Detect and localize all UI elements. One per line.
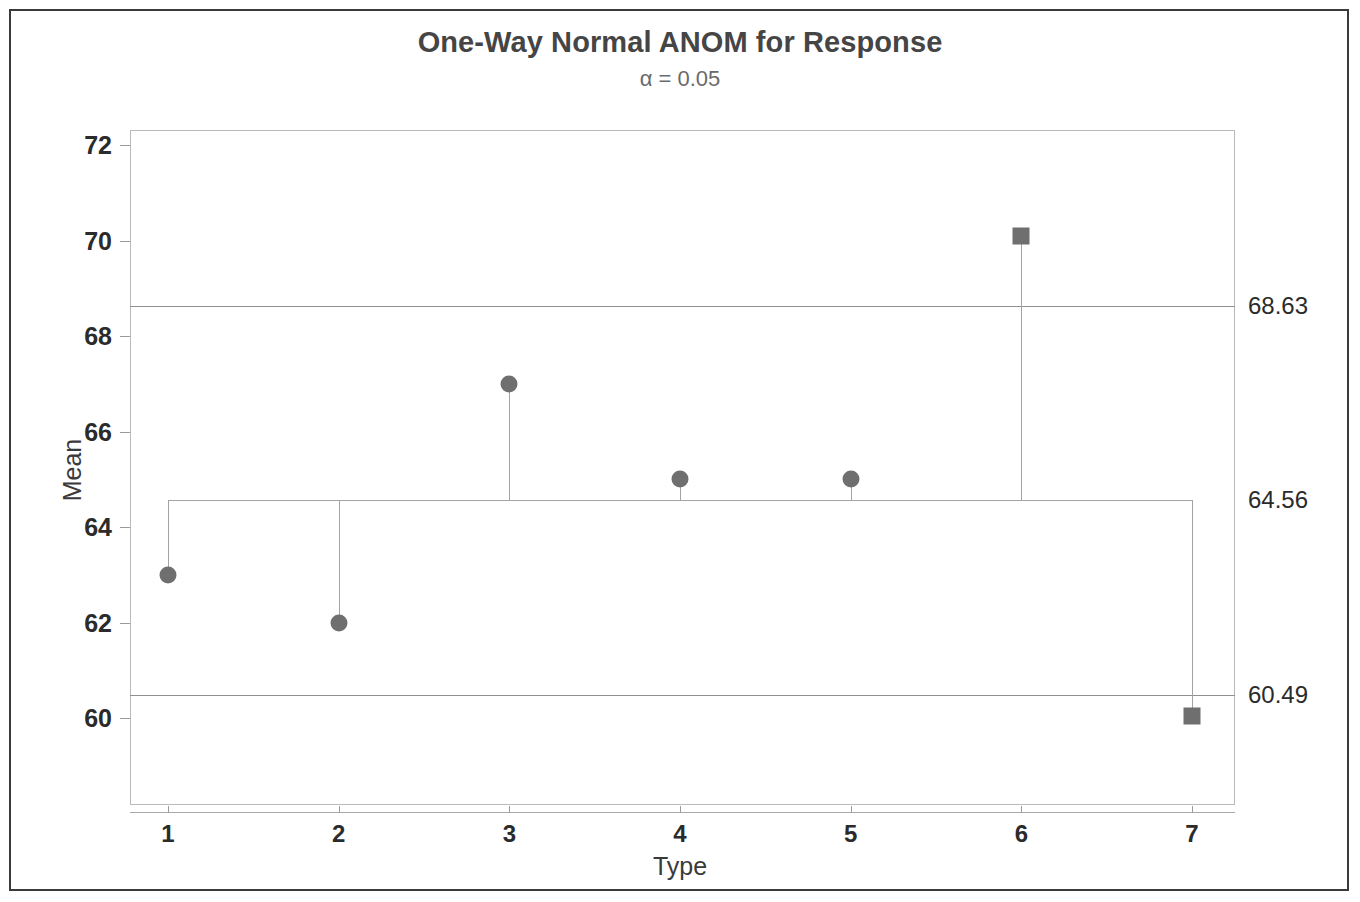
x-axis-tick-mark xyxy=(680,806,681,813)
x-axis-tick-mark xyxy=(1021,806,1022,813)
y-axis-tick-mark xyxy=(120,336,130,337)
upper-decision-limit-line xyxy=(130,306,1235,307)
plot-inner xyxy=(131,131,1234,804)
data-point-stem xyxy=(168,500,169,574)
x-axis-tick-mark xyxy=(168,806,169,813)
chart-title: One-Way Normal ANOM for Response xyxy=(0,26,1360,59)
y-axis-tick-label: 62 xyxy=(52,608,112,637)
chart-subtitle: α = 0.05 xyxy=(0,66,1360,92)
data-point-marker[interactable] xyxy=(501,375,518,392)
y-axis-tick-mark xyxy=(120,623,130,624)
data-point-marker[interactable] xyxy=(672,471,689,488)
x-axis-tick-label: 1 xyxy=(138,820,198,848)
y-axis-tick-mark xyxy=(120,432,130,433)
chart-surface: One-Way Normal ANOM for Response α = 0.0… xyxy=(0,0,1360,902)
data-point-stem xyxy=(1021,236,1022,501)
x-axis-title: Type xyxy=(0,852,1360,881)
udl-value-label: 68.63 xyxy=(1248,292,1308,320)
x-axis-tick-label: 2 xyxy=(309,820,369,848)
x-axis-tick-mark xyxy=(509,806,510,813)
x-axis-line xyxy=(130,812,1235,813)
data-point-marker[interactable] xyxy=(842,471,859,488)
data-point-marker[interactable] xyxy=(160,566,177,583)
data-point-marker-out-of-limits[interactable] xyxy=(1013,227,1030,244)
data-point-stem xyxy=(339,500,340,622)
x-axis-tick-label: 3 xyxy=(479,820,539,848)
y-axis-tick-label: 68 xyxy=(52,322,112,351)
x-axis-tick-label: 5 xyxy=(821,820,881,848)
anom-chart-page: One-Way Normal ANOM for Response α = 0.0… xyxy=(0,0,1360,902)
y-axis-title: Mean xyxy=(58,410,87,530)
lower-decision-limit-line xyxy=(130,695,1235,696)
x-axis-tick-mark xyxy=(1192,806,1193,813)
y-axis-tick-label: 70 xyxy=(52,226,112,255)
x-axis-tick-label: 4 xyxy=(650,820,710,848)
y-axis-tick-label: 60 xyxy=(52,704,112,733)
y-axis-tick-mark xyxy=(120,241,130,242)
x-axis-tick-label: 6 xyxy=(991,820,1051,848)
x-axis-tick-mark xyxy=(851,806,852,813)
x-axis-tick-mark xyxy=(339,806,340,813)
y-axis-tick-mark xyxy=(120,527,130,528)
center-line-value-label: 64.56 xyxy=(1248,486,1308,514)
y-axis-tick-mark xyxy=(120,718,130,719)
data-point-marker-out-of-limits[interactable] xyxy=(1184,707,1201,724)
center-line xyxy=(168,500,1192,501)
y-axis-tick-mark xyxy=(120,145,130,146)
ldl-value-label: 60.49 xyxy=(1248,681,1308,709)
data-point-stem xyxy=(509,384,510,501)
y-axis-tick-label: 72 xyxy=(52,131,112,160)
data-point-marker[interactable] xyxy=(330,614,347,631)
data-point-stem xyxy=(1192,500,1193,715)
plot-area xyxy=(130,130,1235,805)
x-axis-tick-label: 7 xyxy=(1162,820,1222,848)
